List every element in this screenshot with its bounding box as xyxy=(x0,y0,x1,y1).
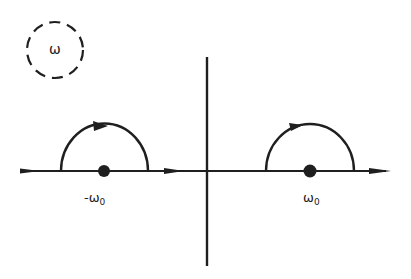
pole-label-positive: ω0 xyxy=(303,191,320,207)
arrow-icon-axis-left xyxy=(20,169,40,174)
indentation-arc-right xyxy=(266,124,354,171)
contour-diagram xyxy=(0,0,411,279)
arrow-icon-axis-right xyxy=(369,168,391,174)
pole-positive xyxy=(304,165,317,178)
plane-label: ω xyxy=(49,42,61,56)
pole-negative xyxy=(98,165,110,177)
indentation-arc-left xyxy=(61,123,148,171)
pole-label-negative: -ω0 xyxy=(84,191,105,207)
arrow-icon-axis-mid xyxy=(164,168,184,174)
